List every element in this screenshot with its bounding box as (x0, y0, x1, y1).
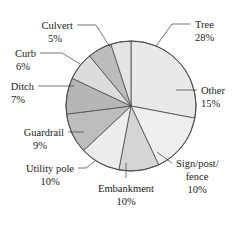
label-sign-line2: fence (186, 171, 209, 182)
leader-curb (40, 53, 80, 64)
label-curb-pct: 6% (16, 61, 30, 72)
pie-slice (131, 41, 196, 118)
label-tree-name: Tree (195, 19, 214, 30)
leader-utility-pole (78, 160, 96, 168)
label-utility-pole-pct: 10% (40, 176, 60, 187)
label-other-pct: 15% (201, 98, 221, 109)
label-guardrail-pct: 9% (33, 140, 47, 151)
pie-slices-group (66, 41, 196, 171)
pie-chart-figure: Tree 28% Other 15% Sign/post/ fence 10% … (0, 0, 250, 225)
label-sign-pct: 10% (187, 184, 207, 195)
label-culvert-name: Culvert (42, 20, 74, 31)
leader-culvert (77, 25, 110, 47)
label-embankment-pct: 10% (116, 196, 136, 207)
label-embankment-name: Embankment (98, 183, 154, 194)
label-other-name: Other (201, 85, 225, 96)
label-guardrail-name: Guardrail (24, 127, 64, 138)
label-curb-name: Curb (15, 48, 36, 59)
label-sign-line1: Sign/post/ (176, 158, 219, 169)
label-ditch-pct: 7% (11, 94, 25, 105)
label-ditch-name: Ditch (11, 81, 35, 92)
label-utility-pole-name: Utility pole (26, 163, 74, 174)
leader-tree (156, 24, 190, 46)
label-culvert-pct: 5% (48, 33, 62, 44)
pie-chart-svg: Tree 28% Other 15% Sign/post/ fence 10% … (0, 0, 250, 225)
label-tree-pct: 28% (195, 32, 215, 43)
